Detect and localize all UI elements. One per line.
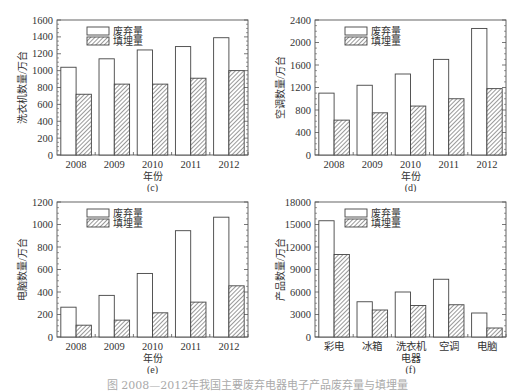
y-tick-label: 800	[37, 82, 53, 93]
x-tick-label: 2011	[438, 159, 459, 170]
legend-label-landfilled: 填埋量	[371, 217, 401, 229]
chart-panel-d: 0400800120016002000240020082009201020112…	[258, 0, 515, 192]
y-tick-label: 1000	[32, 65, 53, 76]
x-tick-label: 洗衣机	[396, 340, 427, 352]
x-tick-label: 2010	[400, 159, 421, 170]
y-tick-label: 400	[37, 116, 53, 127]
x-tick-label: 冰箱	[362, 340, 382, 352]
x-tick-label: 2009	[104, 159, 125, 170]
bar-landfilled	[153, 313, 168, 337]
bar-discarded	[319, 93, 334, 155]
x-axis-label: 年份	[143, 170, 163, 182]
chart-f: 0300060009000120001500018000彩电冰箱洗衣机空调电脑电…	[258, 182, 515, 374]
bar-discarded	[214, 38, 229, 155]
y-tick-label: 400	[37, 287, 53, 298]
x-axis-label: 电器	[401, 352, 421, 364]
bar-discarded	[319, 221, 334, 337]
bar-discarded	[433, 279, 448, 337]
chart-e: 0200400600800100012002008200920102011201…	[0, 182, 258, 374]
x-tick-label: 2011	[180, 341, 201, 352]
chart-panel-e: 0200400600800100012002008200920102011201…	[0, 182, 258, 374]
y-tick-label: 200	[37, 133, 53, 144]
y-axis-label: 空调数量/万台	[274, 56, 286, 119]
legend-swatch-landfilled	[87, 37, 109, 45]
y-tick-label: 0	[306, 332, 311, 343]
figure-caption: 图 2008—2012年我国主要废弃电器电子产品废弃量与填埋量	[0, 376, 515, 392]
bar-landfilled	[411, 106, 426, 155]
bar-landfilled	[191, 78, 206, 155]
bar-discarded	[99, 59, 114, 155]
x-tick-label: 空调	[439, 340, 459, 352]
bar-discarded	[357, 302, 372, 337]
y-axis-label: 产品数量/万台	[274, 238, 286, 301]
legend-swatch-discarded	[345, 27, 367, 35]
bar-discarded	[395, 74, 410, 155]
bar-landfilled	[76, 325, 91, 337]
bar-landfilled	[229, 286, 244, 337]
x-tick-label: 2009	[104, 341, 125, 352]
x-tick-label: 彩电	[324, 340, 345, 352]
bar-discarded	[395, 292, 410, 337]
y-tick-label: 9000	[290, 264, 311, 275]
bar-discarded	[357, 85, 372, 155]
x-tick-label: 2010	[142, 341, 163, 352]
legend-label-landfilled: 填埋量	[371, 35, 401, 47]
legend-swatch-landfilled	[87, 219, 109, 227]
y-tick-label: 6000	[290, 287, 311, 298]
x-tick-label: 2010	[142, 159, 163, 170]
bar-landfilled	[449, 305, 464, 337]
bar-discarded	[61, 307, 76, 337]
chart-c: 0200400600800100012001400160020082009201…	[0, 0, 258, 192]
bar-discarded	[99, 295, 114, 337]
panel-label: (f)	[406, 364, 416, 374]
bar-landfilled	[334, 120, 349, 155]
bar-discarded	[137, 50, 152, 155]
bar-landfilled	[449, 99, 464, 155]
y-tick-label: 800	[37, 242, 53, 253]
bar-discarded	[61, 67, 76, 155]
y-tick-label: 2400	[290, 15, 311, 26]
y-tick-label: 1200	[32, 48, 53, 59]
x-tick-label: 2012	[218, 159, 239, 170]
bar-discarded	[175, 47, 190, 155]
y-tick-label: 200	[37, 309, 53, 320]
y-tick-label: 800	[295, 105, 311, 116]
x-tick-label: 2009	[362, 159, 383, 170]
bar-landfilled	[487, 89, 502, 155]
y-tick-label: 1200	[32, 197, 53, 208]
bar-discarded	[472, 28, 487, 155]
x-tick-label: 2012	[476, 159, 497, 170]
chart-d: 0400800120016002000240020082009201020112…	[258, 0, 515, 192]
bar-landfilled	[153, 84, 168, 155]
bar-discarded	[175, 231, 190, 337]
y-tick-label: 600	[37, 99, 53, 110]
y-tick-label: 2000	[290, 37, 311, 48]
bar-landfilled	[114, 320, 129, 337]
y-tick-label: 15000	[285, 219, 311, 230]
y-tick-label: 3000	[290, 309, 311, 320]
legend-swatch-landfilled	[345, 37, 367, 45]
legend-swatch-landfilled	[345, 219, 367, 227]
y-tick-label: 0	[306, 150, 311, 161]
bar-discarded	[472, 313, 487, 337]
y-tick-label: 1000	[32, 219, 53, 230]
bar-discarded	[214, 217, 229, 337]
y-tick-label: 1600	[32, 15, 53, 26]
x-tick-label: 2012	[218, 341, 239, 352]
y-tick-label: 12000	[285, 242, 311, 253]
y-tick-label: 18000	[285, 197, 311, 208]
y-tick-label: 1600	[290, 60, 311, 71]
bar-landfilled	[372, 310, 387, 337]
bar-landfilled	[191, 302, 206, 337]
bar-landfilled	[229, 71, 244, 155]
panel-label: (e)	[147, 364, 158, 374]
bar-discarded	[137, 273, 152, 337]
chart-panel-f: 0300060009000120001500018000彩电冰箱洗衣机空调电脑电…	[258, 182, 515, 374]
bar-landfilled	[334, 255, 349, 338]
x-axis-label: 年份	[401, 170, 421, 182]
y-tick-label: 0	[48, 150, 53, 161]
x-tick-label: 2008	[66, 341, 87, 352]
bar-landfilled	[487, 328, 502, 337]
y-tick-label: 600	[37, 264, 53, 275]
x-axis-label: 年份	[143, 352, 163, 364]
